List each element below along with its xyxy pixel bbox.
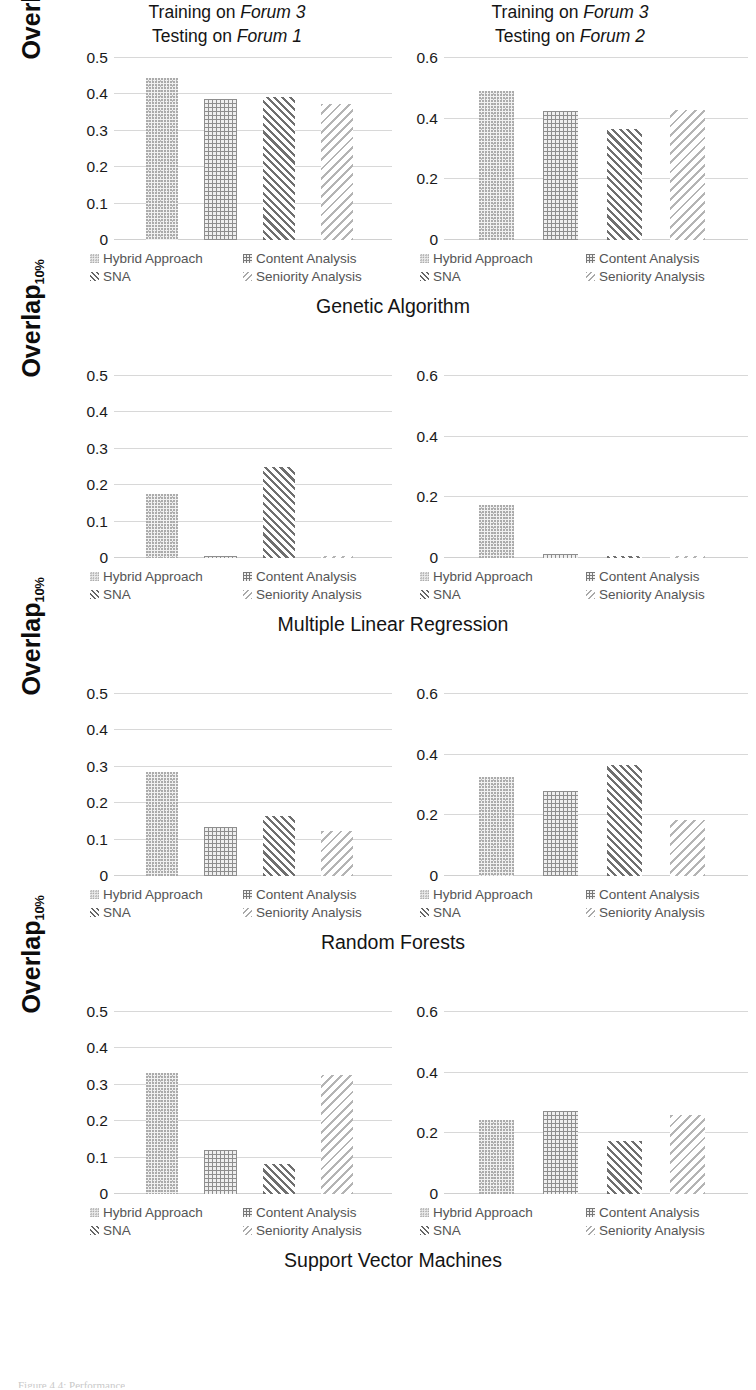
legend-item-content[interactable]: Content Analysis xyxy=(586,569,748,584)
algorithm-caption: Support Vector Machines xyxy=(0,1249,756,1272)
legend-label: Hybrid Approach xyxy=(433,569,533,584)
legend-item-seniority[interactable]: Seniority Analysis xyxy=(586,905,748,920)
legend-label: Content Analysis xyxy=(599,887,700,902)
title-line1-forum: Forum 3 xyxy=(240,2,305,22)
plot-area: 0.60.40.20 xyxy=(392,1006,748,1202)
legend-item-sna[interactable]: SNA xyxy=(90,587,239,602)
legend-item-content[interactable]: Content Analysis xyxy=(243,569,392,584)
legend-label: Content Analysis xyxy=(599,569,700,584)
legend-item-sna[interactable]: SNA xyxy=(420,1223,582,1238)
chart-panel-forum2: 0.60.40.20Hybrid ApproachContent Analysi… xyxy=(392,636,748,929)
legend-label: SNA xyxy=(103,905,131,920)
legend-label: Seniority Analysis xyxy=(256,587,362,602)
legend-item-seniority[interactable]: Seniority Analysis xyxy=(243,1223,392,1238)
legend-grid: Hybrid ApproachContent AnalysisSNASenior… xyxy=(392,251,748,284)
y-axis-tick-label: 0 xyxy=(429,549,438,567)
legend-item-sna[interactable]: SNA xyxy=(420,905,582,920)
title-line1-prefix: Training on xyxy=(149,2,241,22)
bar-hybrid xyxy=(146,78,178,240)
legend-item-seniority[interactable]: Seniority Analysis xyxy=(586,269,748,284)
legend-item-content[interactable]: Content Analysis xyxy=(586,887,748,902)
legend-item-sna[interactable]: SNA xyxy=(420,587,582,602)
y-axis-tick-label: 0.4 xyxy=(416,1064,438,1082)
chart-title: Training on Forum 3Testing on Forum 2 xyxy=(392,0,748,48)
legend-item-seniority[interactable]: Seniority Analysis xyxy=(586,587,748,602)
legend-item-hybrid[interactable]: Hybrid Approach xyxy=(420,251,582,266)
legend-item-hybrid[interactable]: Hybrid Approach xyxy=(420,887,582,902)
legend-item-hybrid[interactable]: Hybrid Approach xyxy=(420,569,582,584)
legend-item-content[interactable]: Content Analysis xyxy=(243,887,392,902)
legend-label: SNA xyxy=(433,905,461,920)
legend-item-hybrid[interactable]: Hybrid Approach xyxy=(90,251,239,266)
plot-area: 0.60.40.20 xyxy=(392,52,748,248)
bar-sna xyxy=(607,129,642,240)
y-axis-tick-label: 0.3 xyxy=(86,122,108,140)
legend-item-sna[interactable]: SNA xyxy=(90,1223,239,1238)
legend-grid: Hybrid ApproachContent AnalysisSNASenior… xyxy=(62,887,392,920)
bar-sna xyxy=(263,97,295,240)
y-axis-tick-label: 0.6 xyxy=(416,49,438,67)
legend-item-sna[interactable]: SNA xyxy=(90,905,239,920)
title-spacer xyxy=(62,318,392,370)
y-axis-tick-label: 0 xyxy=(429,1185,438,1203)
bar-seniority xyxy=(670,1115,705,1194)
legend-label: Seniority Analysis xyxy=(256,905,362,920)
y-axis: 0.50.40.30.20.10 xyxy=(62,1006,114,1202)
bar-content xyxy=(543,1111,578,1194)
y-axis-label-subscript: 10% xyxy=(32,259,47,284)
bar-group xyxy=(444,370,748,566)
legend-item-sna[interactable]: SNA xyxy=(90,269,239,284)
y-axis-tick-label: 0.6 xyxy=(416,1003,438,1021)
y-axis-label-text: Overlap10% xyxy=(17,895,46,1013)
content-swatch-icon xyxy=(243,254,252,263)
legend-item-hybrid[interactable]: Hybrid Approach xyxy=(420,1205,582,1220)
legend-item-seniority[interactable]: Seniority Analysis xyxy=(243,269,392,284)
bar-hybrid xyxy=(479,1120,514,1194)
legend-item-seniority[interactable]: Seniority Analysis xyxy=(586,1223,748,1238)
legend-grid: Hybrid ApproachContent AnalysisSNASenior… xyxy=(62,569,392,602)
legend-item-content[interactable]: Content Analysis xyxy=(243,1205,392,1220)
chart-panel-forum2: 0.60.40.20Hybrid ApproachContent Analysi… xyxy=(392,318,748,611)
y-axis: 0.60.40.20 xyxy=(392,52,444,248)
content-swatch-icon xyxy=(586,254,595,263)
legend-item-content[interactable]: Content Analysis xyxy=(243,251,392,266)
y-axis-tick-label: 0 xyxy=(99,549,108,567)
legend-item-hybrid[interactable]: Hybrid Approach xyxy=(90,569,239,584)
seniority-swatch-icon xyxy=(586,908,595,917)
bar-sna xyxy=(607,556,642,558)
panel-row-2: Overlap10%0.50.40.30.20.10Hybrid Approac… xyxy=(0,318,756,636)
bar-content xyxy=(204,556,236,558)
title-line2-forum: Forum 1 xyxy=(237,26,302,46)
panel-row-charts: Overlap10%0.50.40.30.20.10Hybrid Approac… xyxy=(0,318,756,611)
sna-swatch-icon xyxy=(420,272,429,281)
legend-item-hybrid[interactable]: Hybrid Approach xyxy=(90,1205,239,1220)
legend-item-content[interactable]: Content Analysis xyxy=(586,251,748,266)
chart-legend: Hybrid ApproachContent AnalysisSNASenior… xyxy=(392,569,748,611)
legend-label: Seniority Analysis xyxy=(599,587,705,602)
legend-item-sna[interactable]: SNA xyxy=(420,269,582,284)
legend-item-hybrid[interactable]: Hybrid Approach xyxy=(90,887,239,902)
legend-item-seniority[interactable]: Seniority Analysis xyxy=(243,905,392,920)
legend-item-content[interactable]: Content Analysis xyxy=(586,1205,748,1220)
bar-seniority xyxy=(321,104,353,241)
legend-label: SNA xyxy=(103,269,131,284)
legend-grid: Hybrid ApproachContent AnalysisSNASenior… xyxy=(62,251,392,284)
legend-label: Seniority Analysis xyxy=(599,269,705,284)
bar-group xyxy=(114,688,392,884)
bar-sna xyxy=(607,1141,642,1194)
bar-sna xyxy=(263,467,295,558)
legend-label: Hybrid Approach xyxy=(433,1205,533,1220)
y-axis-tick-label: 0.2 xyxy=(416,170,438,188)
y-axis-tick-label: 0.4 xyxy=(416,428,438,446)
plot-area: 0.50.40.30.20.10 xyxy=(62,370,392,566)
y-axis-tick-label: 0 xyxy=(99,1185,108,1203)
y-axis-tick-label: 0 xyxy=(99,231,108,249)
title-line2-prefix: Testing on xyxy=(152,26,237,46)
legend-item-seniority[interactable]: Seniority Analysis xyxy=(243,587,392,602)
legend-label: Hybrid Approach xyxy=(103,251,203,266)
y-axis-tick-label: 0.1 xyxy=(86,513,108,531)
title-spacer xyxy=(62,954,392,1006)
legend-label: Content Analysis xyxy=(256,887,357,902)
seniority-swatch-icon xyxy=(586,590,595,599)
hybrid-swatch-icon xyxy=(90,254,99,263)
